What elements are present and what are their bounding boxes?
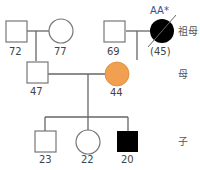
age-label: 23 (39, 154, 52, 165)
generation-label-child: 子 (178, 136, 188, 147)
individual-father (27, 62, 48, 83)
age-label: (45) (150, 46, 171, 57)
age-label: 20 (121, 154, 134, 165)
generation-label-mother: 母 (178, 69, 188, 80)
individual-maternal-grandfather (104, 21, 125, 42)
age-label: 22 (81, 154, 94, 165)
annotation-label: AA* (150, 5, 169, 16)
individual-daughter (76, 130, 100, 154)
age-label: 47 (30, 86, 43, 97)
age-label: 69 (107, 46, 120, 57)
pedigree-diagram: 72 77 69 AA* (45) 祖母 47 44 母 23 22 20 子 (0, 0, 200, 170)
individual-son-2-affected (117, 131, 138, 152)
individual-paternal-grandmother (49, 19, 73, 43)
age-label: 44 (110, 87, 123, 98)
individual-paternal-grandfather (6, 21, 27, 42)
individual-son-1 (35, 131, 56, 152)
age-label: 77 (54, 46, 67, 57)
individual-mother-carrier (105, 62, 129, 86)
generation-label-grandmother: 祖母 (178, 25, 198, 37)
age-label: 72 (9, 46, 22, 57)
